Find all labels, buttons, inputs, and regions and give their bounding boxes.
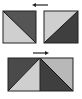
- quilt-triangle-diagram: [0, 0, 82, 99]
- top-left-tile: [3, 11, 36, 43]
- arrow-left-icon: [32, 3, 48, 7]
- arrow-right-icon: [33, 51, 49, 55]
- top-right-tile: [44, 11, 78, 43]
- bottom-combined-block: [8, 58, 73, 91]
